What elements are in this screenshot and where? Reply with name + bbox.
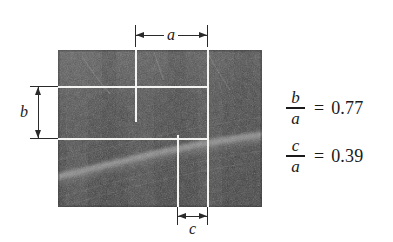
equals-sign: =	[314, 98, 324, 119]
dimension-a-arrowhead-left	[136, 32, 144, 38]
guide-line-a-left	[135, 50, 137, 122]
guide-line-a-right	[207, 50, 209, 207]
fraction-denominator: a	[287, 109, 304, 128]
dimension-a-arrowhead-right	[199, 32, 207, 38]
dimension-b-arrowhead-bottom	[35, 130, 41, 138]
equals-sign: =	[314, 146, 324, 167]
equation-value: 0.77	[331, 98, 363, 119]
dimension-c-label: c	[186, 221, 199, 237]
equation-b-over-a: b a = 0.77	[286, 84, 363, 132]
guide-line-b-bottom	[58, 138, 208, 140]
guide-line-c-left	[177, 135, 179, 207]
micrograph-image	[58, 50, 262, 207]
dimension-b-label: b	[17, 104, 31, 120]
fraction-c-over-a: c a	[286, 136, 305, 175]
guide-line-b-top	[58, 86, 208, 88]
equation-c-over-a: c a = 0.39	[286, 132, 363, 180]
micrograph-canvas	[58, 50, 262, 207]
equation-value: 0.39	[331, 146, 363, 167]
dimension-c-tick-right	[207, 207, 208, 225]
dimension-c-arrowhead-right	[199, 213, 207, 219]
equation-list: b a = 0.77 c a = 0.39	[286, 84, 363, 180]
dimension-c-arrowhead-left	[178, 213, 186, 219]
fraction-numerator: c	[288, 136, 304, 155]
dimension-b-arrowhead-top	[35, 87, 41, 95]
dimension-a-label: a	[164, 27, 178, 43]
fraction-denominator: a	[287, 157, 304, 176]
figure-root: a b c b a = 0.7	[0, 0, 393, 242]
dimension-b-tick-bottom	[30, 138, 58, 139]
dimension-a-tick-right	[207, 25, 208, 47]
fraction-b-over-a: b a	[286, 88, 305, 127]
fraction-numerator: b	[287, 88, 304, 107]
